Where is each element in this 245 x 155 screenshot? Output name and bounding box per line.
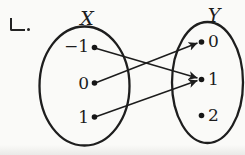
- dot-y-1: [199, 77, 205, 83]
- arrow-1-to-1: [97, 81, 198, 117]
- y-element-2: 2: [208, 107, 219, 124]
- x-element-1: 1: [78, 109, 89, 126]
- x-element-0: 0: [78, 75, 89, 92]
- textbook-diagram: X Y −1 0 1 0 1 2: [0, 0, 245, 155]
- dot-x-0: [92, 80, 98, 86]
- y-element-0: 0: [208, 33, 219, 50]
- dot-x-1: [92, 114, 98, 120]
- dot-x-neg1: [92, 45, 98, 51]
- dot-y-2: [199, 113, 205, 119]
- dot-y-0: [199, 39, 205, 45]
- set-y-label: Y: [208, 6, 221, 25]
- arrow-0-to-0: [97, 43, 198, 83]
- x-element-neg1: −1: [64, 38, 89, 55]
- y-element-1: 1: [208, 71, 219, 88]
- set-x-label: X: [80, 9, 94, 28]
